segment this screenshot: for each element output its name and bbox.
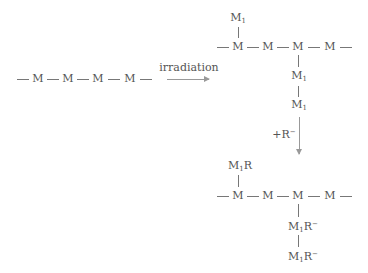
bond — [217, 47, 229, 48]
monomer-unit: M — [324, 41, 335, 53]
reagent-label: +R− — [272, 128, 295, 141]
bond — [247, 47, 259, 48]
bond — [298, 204, 299, 217]
monomer-unit: M — [324, 190, 335, 202]
monomer-unit: M — [232, 190, 243, 202]
bond — [277, 47, 289, 48]
bond — [77, 79, 89, 80]
monomer-unit: M — [262, 190, 273, 202]
monomer-unit: M — [232, 41, 243, 53]
bond — [298, 235, 299, 247]
branch-unit-top: M1R — [228, 160, 252, 175]
bond — [238, 175, 239, 187]
bond — [247, 196, 259, 197]
bond — [217, 196, 229, 197]
reaction-arrow-down — [299, 117, 300, 154]
monomer-unit: M — [292, 190, 303, 202]
bond — [298, 55, 299, 67]
monomer-unit: M — [92, 73, 103, 85]
bond — [17, 79, 29, 80]
branch-unit-down: M1 — [291, 70, 307, 85]
irradiation-label: irradiation — [159, 61, 218, 74]
bond — [308, 196, 320, 197]
branch-unit-down: M1R− — [288, 218, 318, 236]
bond — [308, 47, 320, 48]
monomer-unit: M — [124, 73, 135, 85]
branch-unit-down: M1R− — [288, 248, 318, 266]
monomer-unit: M — [292, 41, 303, 53]
bond — [108, 79, 120, 80]
branch-unit-top: M1 — [230, 12, 246, 27]
bond — [298, 86, 299, 97]
bond — [140, 79, 152, 80]
monomer-unit: M — [262, 41, 273, 53]
bond — [277, 196, 289, 197]
monomer-unit: M — [32, 73, 43, 85]
monomer-unit: M — [62, 73, 73, 85]
bond — [340, 47, 352, 48]
bond — [340, 196, 352, 197]
bond — [47, 79, 59, 80]
reaction-arrow-right — [167, 79, 209, 80]
bond — [238, 27, 239, 38]
branch-unit-down: M1 — [291, 99, 307, 114]
